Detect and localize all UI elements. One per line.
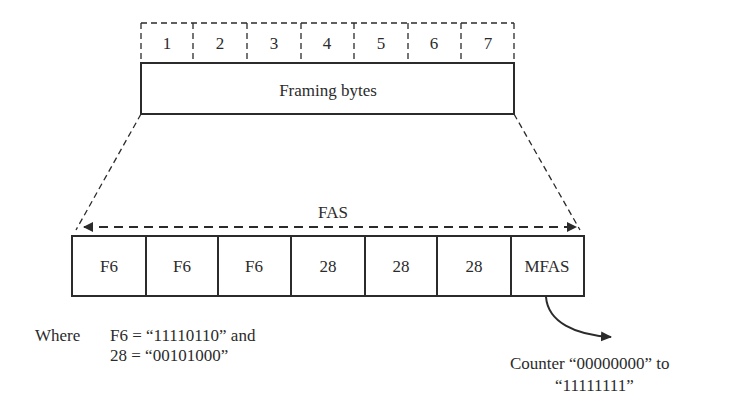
fas-cell-6: 28: [466, 257, 483, 277]
framing-bytes-label: Framing bytes: [279, 81, 377, 101]
byte-number-3: 3: [270, 34, 279, 54]
byte-number-1: 1: [163, 34, 172, 54]
where-label: Where: [35, 327, 80, 344]
fas-cell-5: 28: [393, 257, 410, 277]
expansion-left-line: [76, 114, 141, 230]
expansion-right-line: [514, 114, 580, 230]
byte-number-7: 7: [484, 34, 493, 54]
f6-definition: F6 = “11110110” and: [110, 327, 255, 344]
mfas-counter-arrow: [546, 297, 611, 337]
byte-number-2: 2: [216, 34, 225, 54]
fas-frame-diagram: 1 2 3 4 5 6 7 Framing bytes FAS F6 F6 F6…: [0, 0, 746, 418]
counter-note-line2: “11111111”: [555, 377, 634, 394]
fas-cell-2: F6: [173, 257, 191, 277]
28-definition: 28 = “00101000”: [110, 347, 228, 364]
fas-cell-mfas: MFAS: [524, 257, 569, 277]
fas-cell-4: 28: [320, 257, 337, 277]
fas-label: FAS: [318, 203, 348, 223]
byte-number-6: 6: [430, 34, 439, 54]
fas-cell-1: F6: [100, 257, 118, 277]
fas-cell-3: F6: [245, 257, 263, 277]
byte-number-5: 5: [377, 34, 386, 54]
counter-note-line1: Counter “00000000” to: [510, 355, 670, 372]
byte-number-4: 4: [323, 34, 332, 54]
